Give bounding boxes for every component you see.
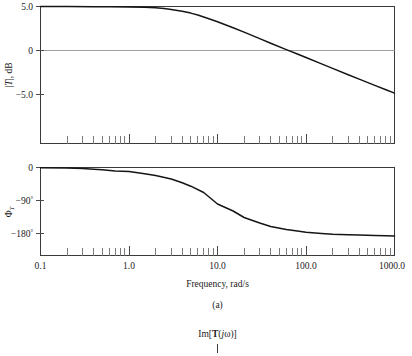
phase-ytick-label-2: −180°	[11, 228, 34, 240]
magnitude-ytick-label-2: −5.0	[16, 90, 33, 100]
phase-ytick-label-0: 0	[28, 163, 33, 173]
xtick-label-2: 10.0	[209, 261, 226, 271]
xtick-label-3: 100.0	[295, 261, 317, 271]
magnitude-plot-group: 5.0 0 −5.0 |T|, dB	[4, 2, 395, 144]
bode-plot-figure: 5.0 0 −5.0 |T|, dB	[0, 0, 412, 356]
xtick-label-0: 0.1	[35, 261, 47, 271]
imaginary-axis-label: Im[T(jω)]	[198, 329, 236, 340]
phase-yaxis-title: ΦT	[4, 206, 15, 217]
xtick-label-1: 1.0	[123, 261, 135, 271]
magnitude-ylabel-suffix: |, dB	[4, 63, 14, 81]
figure-caption-a: (a)	[212, 300, 223, 311]
phase-ylabel-sub: T	[8, 206, 15, 210]
magnitude-ytick-label-0: 5.0	[21, 2, 33, 12]
svg-text:ΦT: ΦT	[4, 206, 15, 217]
magnitude-curve	[41, 7, 395, 94]
magnitude-xtick-marks	[67, 134, 390, 144]
bode-plot-canvas: 5.0 0 −5.0 |T|, dB	[0, 0, 412, 356]
xtick-label-4: 1000.0	[379, 261, 405, 271]
phase-ylabel-prefix: Φ	[4, 210, 14, 217]
xaxis-title: Frequency, rad/s	[186, 279, 249, 289]
magnitude-plot-frame	[41, 7, 395, 144]
svg-text:|T|, dB: |T|, dB	[4, 63, 14, 88]
magnitude-yaxis-title: |T|, dB	[4, 63, 14, 88]
phase-ytick-label-1: −90°	[16, 195, 34, 207]
xaxis-tick-labels: 0.1 1.0 10.0 100.0 1000.0	[35, 261, 406, 271]
phase-plot-group: 0 −90° −180° ΦT	[4, 163, 395, 256]
phase-xtick-marks	[67, 246, 390, 256]
phase-curve	[41, 168, 395, 236]
im-suffix: )]	[230, 329, 236, 340]
phase-plot-frame	[41, 168, 395, 256]
magnitude-ytick-label-1: 0	[28, 46, 33, 56]
im-prefix: Im[	[198, 329, 212, 339]
